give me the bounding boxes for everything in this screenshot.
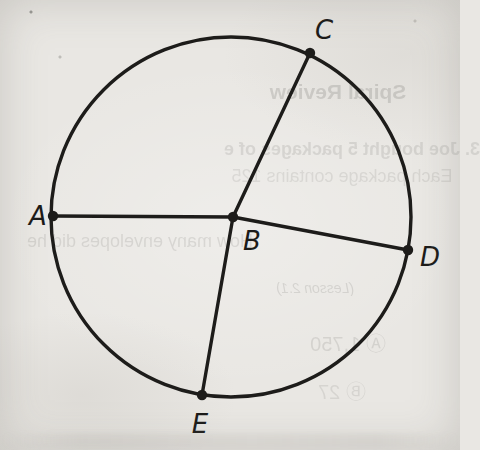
point-label-C: C: [315, 17, 333, 43]
point-dot-E: [197, 390, 207, 400]
point-dot-A: [48, 211, 58, 221]
point-dot-C: [305, 48, 315, 58]
segment-BE: [202, 217, 233, 395]
point-label-B: B: [243, 228, 261, 254]
point-dot-D: [403, 245, 413, 255]
point-label-E: E: [192, 411, 208, 437]
segment-BC: [233, 53, 310, 217]
point-dot-B: [228, 212, 238, 222]
point-label-A: A: [29, 203, 47, 229]
segment-AB: [53, 216, 233, 217]
point-label-D: D: [420, 244, 440, 270]
